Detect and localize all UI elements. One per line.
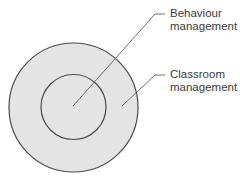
label-classroom-management: Classroom management [170, 68, 237, 94]
inner-circle-behaviour-management [41, 75, 106, 140]
label-behaviour-management: Behaviour management [170, 7, 237, 33]
label-behaviour-line2: management [170, 20, 237, 33]
label-behaviour-line1: Behaviour [170, 7, 237, 20]
label-classroom-line2: management [170, 81, 237, 94]
label-classroom-line1: Classroom [170, 68, 237, 81]
